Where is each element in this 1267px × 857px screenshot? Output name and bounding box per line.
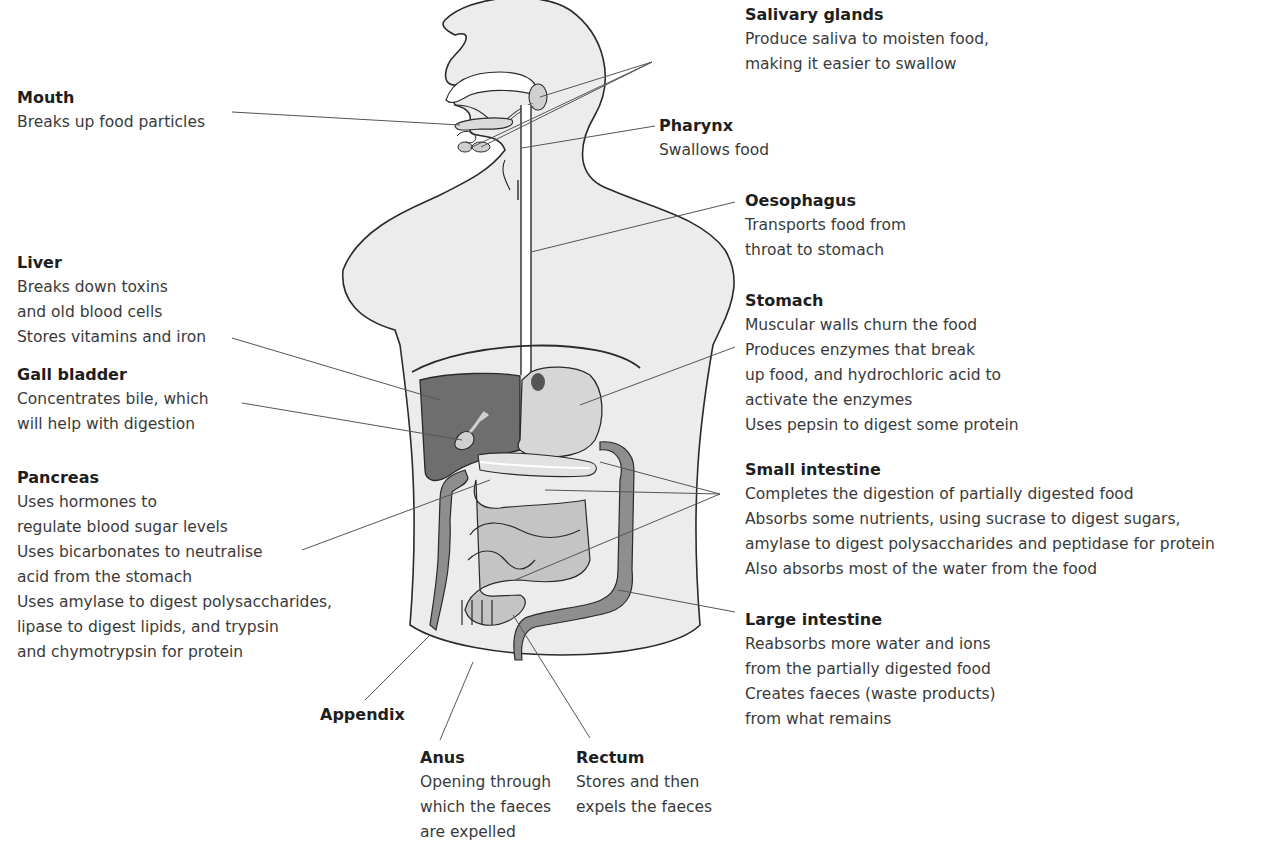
label-text: Uses pepsin to digest some protein xyxy=(745,413,1019,438)
label-text: Stores vitamins and iron xyxy=(17,325,206,350)
oesophagus-tube xyxy=(521,105,531,375)
stomach xyxy=(518,367,602,457)
label-text: acid from the stomach xyxy=(17,565,332,590)
label-text: lipase to digest lipids, and trypsin xyxy=(17,615,332,640)
label-title: Anus xyxy=(420,745,551,770)
label-title: Pharynx xyxy=(659,113,769,138)
label-text: throat to stomach xyxy=(745,238,906,263)
label-title: Liver xyxy=(17,250,206,275)
label-text: Produce saliva to moisten food, xyxy=(745,27,989,52)
label-pancreas: Pancreas Uses hormones to regulate blood… xyxy=(17,465,332,665)
label-text: from the partially digested food xyxy=(745,657,996,682)
label-title: Mouth xyxy=(17,85,205,110)
label-text: Uses bicarbonates to neutralise xyxy=(17,540,332,565)
label-text: making it easier to swallow xyxy=(745,52,989,77)
stomach-fundus xyxy=(531,373,545,391)
label-text: Produces enzymes that break xyxy=(745,338,1019,363)
label-text: Stores and then xyxy=(576,770,712,795)
label-title: Oesophagus xyxy=(745,188,906,213)
label-anus: Anus Opening through which the faeces ar… xyxy=(420,745,551,845)
label-text: Completes the digestion of partially dig… xyxy=(745,482,1215,507)
label-title: Small intestine xyxy=(745,457,1215,482)
label-text: which the faeces xyxy=(420,795,551,820)
label-text: from what remains xyxy=(745,707,996,732)
label-title: Rectum xyxy=(576,745,712,770)
label-text: Reabsorbs more water and ions xyxy=(745,632,996,657)
label-text: Breaks up food particles xyxy=(17,110,205,135)
label-text: Uses amylase to digest polysaccharides, xyxy=(17,590,332,615)
label-oesophagus: Oesophagus Transports food from throat t… xyxy=(745,188,906,263)
label-text: Absorbs some nutrients, using sucrase to… xyxy=(745,507,1215,532)
label-text: and old blood cells xyxy=(17,300,206,325)
label-title: Stomach xyxy=(745,288,1019,313)
label-text: Transports food from xyxy=(745,213,906,238)
label-title: Salivary glands xyxy=(745,2,989,27)
label-text: Muscular walls churn the food xyxy=(745,313,1019,338)
label-title: Appendix xyxy=(320,702,405,727)
label-text: Creates faeces (waste products) xyxy=(745,682,996,707)
label-text: Opening through xyxy=(420,770,551,795)
label-text: Uses hormones to xyxy=(17,490,332,515)
label-gall-bladder: Gall bladder Concentrates bile, which wi… xyxy=(17,362,209,437)
label-text: Also absorbs most of the water from the … xyxy=(745,557,1215,582)
label-large-intestine: Large intestine Reabsorbs more water and… xyxy=(745,607,996,732)
label-salivary-glands: Salivary glands Produce saliva to moiste… xyxy=(745,2,989,77)
label-title: Pancreas xyxy=(17,465,332,490)
label-pharynx: Pharynx Swallows food xyxy=(659,113,769,163)
label-mouth: Mouth Breaks up food particles xyxy=(17,85,205,135)
label-small-intestine: Small intestine Completes the digestion … xyxy=(745,457,1215,582)
label-title: Large intestine xyxy=(745,607,996,632)
label-text: amylase to digest polysaccharides and pe… xyxy=(745,532,1215,557)
label-text: Breaks down toxins xyxy=(17,275,206,300)
label-text: are expelled xyxy=(420,820,551,845)
label-liver: Liver Breaks down toxins and old blood c… xyxy=(17,250,206,350)
label-text: Concentrates bile, which xyxy=(17,387,209,412)
label-rectum: Rectum Stores and then expels the faeces xyxy=(576,745,712,820)
label-appendix: Appendix xyxy=(320,702,405,727)
label-stomach: Stomach Muscular walls churn the food Pr… xyxy=(745,288,1019,438)
label-text: will help with digestion xyxy=(17,412,209,437)
label-text: Swallows food xyxy=(659,138,769,163)
label-text: activate the enzymes xyxy=(745,388,1019,413)
label-text: up food, and hydrochloric acid to xyxy=(745,363,1019,388)
label-text: and chymotrypsin for protein xyxy=(17,640,332,665)
label-text: regulate blood sugar levels xyxy=(17,515,332,540)
label-title: Gall bladder xyxy=(17,362,209,387)
label-text: expels the faeces xyxy=(576,795,712,820)
